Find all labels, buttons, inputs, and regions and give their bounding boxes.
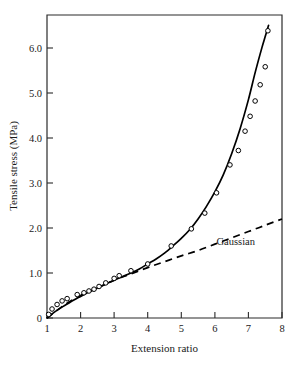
data-point-marker bbox=[266, 28, 271, 33]
data-point-marker bbox=[253, 99, 258, 104]
y-tick-label: 1.0 bbox=[29, 268, 42, 279]
data-point-marker bbox=[103, 281, 108, 286]
y-tick-label: 3.0 bbox=[29, 178, 42, 189]
data-point-marker bbox=[117, 273, 122, 278]
y-tick-label: 4.0 bbox=[29, 133, 42, 144]
gaussian-annotation-label: Gaussian bbox=[217, 236, 256, 247]
x-tick-label: 6 bbox=[212, 323, 217, 334]
y-tick-label: 6.0 bbox=[29, 43, 42, 54]
y-tick-label: 5.0 bbox=[29, 88, 42, 99]
data-point-marker bbox=[65, 296, 70, 301]
data-point-marker bbox=[236, 148, 241, 153]
data-point-marker bbox=[145, 262, 150, 267]
x-tick-label: 2 bbox=[78, 323, 83, 334]
data-point-marker bbox=[112, 276, 117, 281]
data-point-marker bbox=[189, 227, 194, 232]
x-axis-tick-labels: 1 2 3 4 5 6 7 8 bbox=[44, 323, 284, 334]
data-point-marker bbox=[202, 211, 207, 216]
data-point-marker bbox=[243, 129, 248, 134]
data-point-marker bbox=[50, 307, 55, 312]
x-axis-ticks bbox=[47, 312, 282, 318]
data-point-marker bbox=[129, 268, 134, 273]
data-point-marker bbox=[55, 302, 60, 307]
y-tick-label: 2.0 bbox=[29, 223, 42, 234]
tensile-stress-chart: 0 1.0 2.0 3.0 4.0 5.0 6.0 1 2 3 4 5 6 bbox=[0, 0, 298, 369]
data-point-marker bbox=[75, 292, 80, 297]
y-axis-title: Tensile stress (MPa) bbox=[7, 121, 20, 211]
data-point-marker bbox=[46, 312, 51, 317]
y-axis-tick-labels: 0 1.0 2.0 3.0 4.0 5.0 6.0 bbox=[29, 43, 42, 324]
data-point-marker bbox=[87, 289, 92, 294]
data-point-marker bbox=[97, 284, 102, 289]
data-point-marker bbox=[214, 191, 219, 196]
x-tick-label: 4 bbox=[145, 323, 151, 334]
y-tick-label: 0 bbox=[37, 313, 42, 324]
x-tick-label: 8 bbox=[279, 323, 284, 334]
data-point-marker bbox=[248, 114, 253, 119]
data-point-marker bbox=[169, 244, 174, 249]
chart-figure: 0 1.0 2.0 3.0 4.0 5.0 6.0 1 2 3 4 5 6 bbox=[0, 0, 298, 369]
data-point-marker bbox=[60, 299, 65, 304]
x-tick-label: 1 bbox=[44, 323, 49, 334]
data-point-marker bbox=[263, 64, 268, 69]
data-point-markers bbox=[46, 28, 270, 316]
data-point-marker bbox=[92, 287, 97, 292]
plot-frame bbox=[47, 15, 282, 318]
gaussian-series bbox=[47, 219, 282, 318]
experimental-series bbox=[47, 25, 269, 318]
data-point-marker bbox=[258, 82, 263, 87]
x-tick-label: 5 bbox=[179, 323, 184, 334]
data-point-marker bbox=[228, 163, 233, 168]
x-tick-label: 7 bbox=[246, 323, 251, 334]
data-point-marker bbox=[82, 290, 87, 295]
x-tick-label: 3 bbox=[111, 323, 116, 334]
y-axis-ticks bbox=[47, 48, 53, 318]
x-axis-title: Extension ratio bbox=[131, 342, 198, 354]
